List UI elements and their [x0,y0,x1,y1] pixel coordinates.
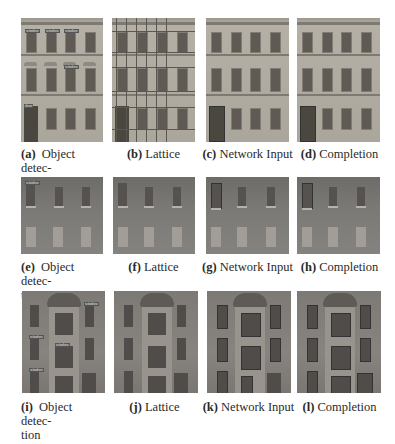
caption-k: (k) Network Input [200,400,297,414]
facade-image-h [297,177,380,254]
facade-image-c [206,18,289,142]
caption-b: (b) Lattice [112,147,195,161]
caption-d: (d) Completion [292,147,387,161]
facade-image-g [206,177,289,254]
facade-image-d [297,18,380,142]
facade-image-i: window window window window [22,291,105,393]
facade-image-e: window [21,177,103,254]
facade-image-l [297,291,381,393]
facade-image-j [114,291,198,393]
facade-image-a: window window window window door [21,18,103,142]
caption-j: (j) Lattice [113,400,196,414]
facade-image-f [113,177,195,254]
facade-image-k [207,291,291,393]
caption-f: (f) Lattice [112,260,195,274]
caption-c: (c) Network Input [200,147,295,161]
caption-g: (g) Network Input [200,260,295,274]
caption-i: (i) Object detec- tion [21,400,106,442]
caption-h: (h) Completion [292,260,387,274]
facade-image-b [112,18,195,142]
caption-l: (l) Completion [291,400,388,414]
